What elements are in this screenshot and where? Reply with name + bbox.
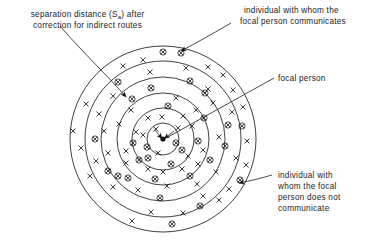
circled-x-mark (195, 138, 201, 144)
x-mark (71, 129, 76, 134)
annotation-communicates: individual with whom the focal person co… (240, 6, 346, 26)
x-mark (121, 64, 126, 69)
does-not-communicate-line4: communicate (278, 204, 330, 213)
x-mark (206, 65, 211, 70)
x-mark (97, 112, 102, 117)
x-mark (211, 101, 216, 106)
circled-x-mark (187, 173, 193, 179)
circled-x-mark (225, 122, 231, 128)
x-mark (194, 108, 199, 113)
separation-distance-line1-tail: ) after (121, 10, 144, 19)
x-mark (94, 159, 99, 164)
x-mark (244, 163, 249, 168)
x-mark (148, 70, 153, 75)
leader-communicates (181, 23, 231, 51)
communicates-line1: individual with whom the (244, 6, 339, 15)
separation-distance-line2: correction for indirect routes (33, 21, 142, 30)
x-mark (146, 116, 151, 121)
circled-x-mark (152, 176, 158, 182)
x-mark (201, 148, 206, 153)
x-mark (146, 167, 151, 172)
x-mark (196, 162, 201, 167)
circled-x-mark (148, 85, 154, 91)
x-mark (106, 151, 111, 156)
circled-x-mark (202, 90, 208, 96)
x-mark (160, 115, 165, 120)
figure-canvas: separation distance (Sa) after correctio… (0, 0, 370, 243)
x-mark (181, 114, 186, 119)
x-mark (180, 167, 185, 172)
x-mark (141, 58, 146, 63)
circled-x-mark (207, 157, 213, 163)
x-mark (165, 184, 170, 189)
does-not-communicate-line2: whom the focal (277, 182, 337, 191)
x-mark (234, 156, 239, 161)
x-mark (195, 182, 200, 187)
x-mark (149, 210, 154, 215)
svg-text:separation distance (Sa) after: separation distance (Sa) after (8, 10, 162, 20)
x-mark (221, 73, 226, 78)
does-not-communicate-line3: person does not (278, 193, 341, 202)
focal-person-label: focal person (278, 74, 326, 83)
x-mark (124, 149, 129, 154)
x-mark (201, 194, 206, 199)
circled-x-mark (157, 195, 163, 201)
focal-person-marker (155, 130, 174, 142)
x-mark (88, 174, 93, 179)
x-mark (111, 94, 116, 99)
x-mark (156, 151, 161, 156)
x-mark (214, 170, 219, 175)
communicates-line2: focal person communicates (240, 17, 346, 26)
x-mark (84, 102, 89, 107)
x-mark (134, 130, 139, 135)
circled-x-mark (125, 175, 131, 181)
sociogram-svg: separation distance (Sa) after correctio… (0, 0, 370, 243)
x-mark (111, 185, 116, 190)
x-mark (79, 146, 84, 151)
circled-x-mark (179, 147, 185, 153)
circled-x-mark (145, 155, 151, 161)
x-mark (227, 187, 232, 192)
separation-distance-line1: separation distance (S (31, 10, 118, 19)
circled-x-mark (136, 157, 142, 163)
circled-x-mark (160, 49, 166, 55)
annotation-does-not-communicate: individual with whom the focal person do… (277, 171, 341, 213)
does-not-communicate-line1: individual with (278, 171, 333, 180)
annotation-separation-distance: separation distance (Sa) after correctio… (8, 10, 162, 30)
leader-does-not-communicate (239, 175, 272, 183)
annotation-focal-person: focal person (278, 74, 326, 83)
x-mark (241, 105, 246, 110)
x-mark (141, 133, 146, 138)
x-mark (130, 219, 135, 224)
circled-x-mark (168, 161, 174, 167)
leader-separation-distance (60, 26, 126, 97)
x-mark (176, 126, 181, 131)
x-mark (174, 96, 179, 101)
circled-x-mark (169, 221, 175, 227)
x-mark (217, 135, 222, 140)
circled-x-mark (115, 79, 121, 85)
x-mark (230, 110, 235, 115)
x-mark (206, 87, 211, 92)
x-mark (217, 198, 222, 203)
x-mark (231, 88, 236, 93)
x-mark (136, 188, 141, 193)
x-mark (184, 66, 189, 71)
x-mark (102, 129, 107, 134)
circled-x-mark (92, 136, 98, 142)
x-mark (129, 108, 134, 113)
circled-x-mark (115, 173, 121, 179)
circled-x-mark (129, 96, 135, 102)
x-mark (245, 139, 250, 144)
